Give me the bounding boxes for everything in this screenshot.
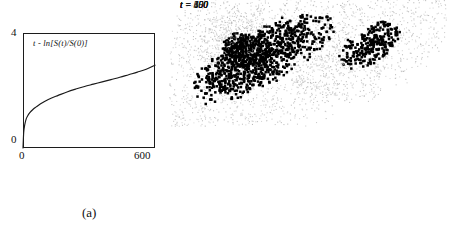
x-axis-tick-max: 600 <box>134 149 151 161</box>
y-axis-tick-max: 4 <box>11 26 17 38</box>
panel-a-caption: (a) <box>82 205 96 221</box>
curve-annotation-label: t - ln[S(t)/S(0)] <box>33 38 88 48</box>
plot-curve-svg <box>23 33 155 148</box>
survival-curve <box>23 65 155 148</box>
panel-b: t = 150 t = 300 t = 450 t = 600 (b) <box>180 0 453 237</box>
x-axis-tick-min: 0 <box>19 149 25 161</box>
figure-root: 4 0 0 600 t - ln[S(t)/S(0)] (a) t = 150 … <box>0 0 453 237</box>
cluster-svg-600 <box>180 0 345 120</box>
panel-a: 4 0 0 600 t - ln[S(t)/S(0)] (a) <box>0 0 180 237</box>
y-axis-tick-min: 0 <box>11 133 17 145</box>
cluster-label-600: t = 600 <box>180 0 208 10</box>
